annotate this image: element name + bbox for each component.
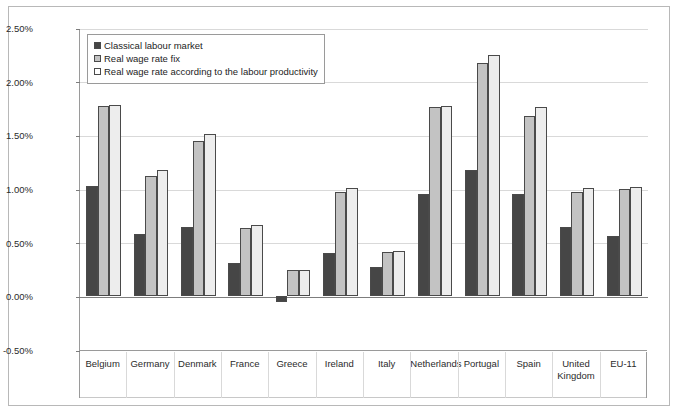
legend-item: Classical labour market bbox=[94, 39, 318, 52]
category-separator bbox=[221, 352, 222, 398]
x-axis-category-label: Denmark bbox=[174, 358, 221, 370]
bar bbox=[524, 116, 536, 296]
x-axis-category-label: Greece bbox=[268, 358, 315, 370]
bar bbox=[583, 188, 595, 296]
bar bbox=[535, 107, 547, 296]
bar bbox=[465, 170, 477, 297]
legend-swatch-icon bbox=[94, 55, 101, 62]
category-separator bbox=[316, 352, 317, 398]
bar bbox=[512, 194, 524, 296]
x-axis-category-labels: BelgiumGermanyDenmarkFranceGreeceIreland… bbox=[79, 352, 647, 398]
x-axis-category-label: Portugal bbox=[458, 358, 505, 370]
bar bbox=[228, 263, 240, 296]
category-label-line: United bbox=[552, 358, 599, 370]
category-separator bbox=[505, 352, 506, 398]
bar bbox=[607, 236, 619, 296]
legend-swatch-icon bbox=[94, 68, 101, 75]
category-label-line: Italy bbox=[363, 358, 410, 370]
category-label-line: Spain bbox=[505, 358, 552, 370]
x-axis-category-label: Germany bbox=[126, 358, 173, 370]
y-axis-tick-label: 0.50% bbox=[0, 239, 33, 249]
y-axis-tick-label: 1.00% bbox=[0, 185, 33, 195]
bar bbox=[157, 170, 169, 297]
bar bbox=[393, 251, 405, 296]
category-separator bbox=[410, 352, 411, 398]
x-axis-category-label: Belgium bbox=[79, 358, 126, 370]
category-label-line: Denmark bbox=[174, 358, 221, 370]
legend-item: Real wage rate according to the labour p… bbox=[94, 65, 318, 78]
bar-group bbox=[601, 28, 648, 350]
bar bbox=[418, 194, 430, 296]
x-axis-category-label: EU-11 bbox=[600, 358, 647, 370]
category-separator bbox=[552, 352, 553, 398]
y-axis-tick-label: -0.50% bbox=[0, 346, 33, 356]
bar bbox=[441, 106, 453, 296]
bar-group bbox=[459, 28, 506, 350]
y-axis-tick-label: 1.50% bbox=[0, 131, 33, 141]
category-label-line: Ireland bbox=[316, 358, 363, 370]
legend-item: Real wage rate fix bbox=[94, 52, 318, 65]
category-separator bbox=[458, 352, 459, 398]
bar bbox=[477, 63, 489, 296]
bar bbox=[488, 55, 500, 297]
category-label-line: Portugal bbox=[458, 358, 505, 370]
bar bbox=[193, 141, 205, 297]
bar bbox=[323, 253, 335, 296]
legend-label: Real wage rate according to the labour p… bbox=[104, 66, 318, 77]
bar bbox=[287, 270, 299, 297]
y-axis-tick-label: 2.50% bbox=[0, 24, 33, 34]
figure-frame: 2.50%2.00%1.50%1.00%0.50%0.00%-0.50% Bel… bbox=[8, 6, 670, 406]
x-axis-category-label: Ireland bbox=[316, 358, 363, 370]
category-label-line: Greece bbox=[268, 358, 315, 370]
y-axis-tick-label: 0.00% bbox=[0, 292, 33, 302]
y-axis-tick-label: 2.00% bbox=[0, 78, 33, 88]
category-band-edge bbox=[79, 352, 80, 398]
bar bbox=[299, 270, 311, 297]
bar bbox=[619, 189, 631, 296]
bar bbox=[251, 225, 263, 296]
legend-swatch-icon bbox=[94, 42, 101, 49]
legend-label: Classical labour market bbox=[104, 40, 203, 51]
bar bbox=[145, 176, 157, 296]
category-separator bbox=[126, 352, 127, 398]
bar-group bbox=[506, 28, 553, 350]
x-axis-category-label: Italy bbox=[363, 358, 410, 370]
bar bbox=[346, 188, 358, 296]
category-label-line: EU-11 bbox=[600, 358, 647, 370]
bar bbox=[109, 105, 121, 296]
bar bbox=[134, 234, 146, 296]
bar bbox=[571, 192, 583, 296]
x-axis-category-label: UnitedKingdom bbox=[552, 358, 599, 381]
category-band-edge bbox=[646, 352, 647, 398]
legend-label: Real wage rate fix bbox=[104, 53, 180, 64]
chart-figure: 2.50%2.00%1.50%1.00%0.50%0.00%-0.50% Bel… bbox=[0, 0, 680, 415]
bar bbox=[335, 192, 347, 296]
bar bbox=[276, 296, 288, 301]
bar bbox=[429, 107, 441, 296]
bar bbox=[204, 134, 216, 296]
category-separator bbox=[363, 352, 364, 398]
bar bbox=[370, 267, 382, 296]
x-axis-category-label: Netherlands bbox=[410, 358, 457, 370]
bar bbox=[86, 186, 98, 297]
category-label-line: Netherlands bbox=[410, 358, 457, 370]
category-separator bbox=[268, 352, 269, 398]
bar-group bbox=[364, 28, 411, 350]
category-separator bbox=[600, 352, 601, 398]
bar-group bbox=[411, 28, 458, 350]
bar bbox=[98, 106, 110, 296]
x-axis-category-label: Spain bbox=[505, 358, 552, 370]
category-label-line: France bbox=[221, 358, 268, 370]
bar bbox=[240, 228, 252, 297]
category-label-line: Germany bbox=[126, 358, 173, 370]
bar bbox=[560, 227, 572, 297]
bar bbox=[382, 252, 394, 296]
bar bbox=[181, 227, 193, 297]
category-label-line: Belgium bbox=[79, 358, 126, 370]
bar bbox=[630, 187, 642, 296]
chart-legend: Classical labour marketReal wage rate fi… bbox=[87, 34, 325, 84]
bar-group bbox=[553, 28, 600, 350]
category-label-line: Kingdom bbox=[552, 370, 599, 382]
category-separator bbox=[174, 352, 175, 398]
x-axis-category-label: France bbox=[221, 358, 268, 370]
